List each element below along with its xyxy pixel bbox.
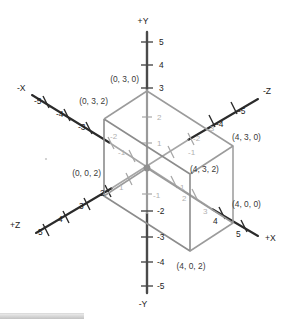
tick-label-z-neg4: -4	[216, 119, 224, 129]
tick-label-inner-z-neg1: -1	[188, 148, 196, 157]
tick-label-z-2: 2	[100, 188, 105, 198]
tick-label-z-3: 3	[79, 201, 84, 211]
tick-label-inner-x-1: 1	[180, 183, 185, 192]
tick-label-inner-z-1: 1	[119, 183, 124, 192]
box-edge-top-left	[104, 91, 147, 119]
axis-label-z-positive: +Z	[10, 220, 20, 230]
tick-label-inner-x-3: 3	[203, 207, 208, 216]
box-edge-bottom-left	[104, 168, 147, 196]
axis-label-z-negative: -Z	[263, 86, 271, 96]
tick-label-y-neg5: -5	[157, 281, 165, 291]
axis-lines	[32, 32, 258, 293]
tick-label-z-neg5: -5	[238, 106, 246, 116]
vertex-label-0-3-0: (0, 3, 0)	[110, 74, 139, 84]
axis-label-x-negative: -X	[17, 83, 26, 93]
tick-label-z-4: 4	[58, 214, 63, 224]
tick-labels-y-negative: -2 -3 -4 -5	[157, 206, 165, 291]
tick-label-inner-y-2: 2	[157, 113, 162, 122]
tick-label-inner-x-2: 2	[182, 194, 187, 203]
tick-label-inner-y-neg1: -1	[153, 191, 161, 200]
vertex-label-4-0-0: (4, 0, 0)	[232, 199, 261, 209]
tick-label-x-neg4: -4	[56, 109, 64, 119]
coordinate-system-figure: +Y -Y +X -X +Z -Z 5 4 3 -2 -3 -4 -5 4 5 …	[0, 0, 294, 319]
vertex-label-4-0-2: (4, 0, 2)	[177, 261, 206, 271]
origin-marker	[144, 165, 151, 172]
tick-labels-y-positive: 5 4 3	[159, 37, 164, 93]
page-speck	[45, 158, 47, 160]
vertex-label-0-0-2: (0, 0, 2)	[72, 168, 101, 178]
tick-label-y-neg4: -4	[157, 257, 165, 267]
tick-label-x-5: 5	[236, 229, 241, 239]
axis-lines-inner	[110, 90, 212, 213]
vertex-label-0-3-2: (0, 3, 2)	[79, 96, 108, 106]
tick-labels-z-negative: -4 -5	[216, 106, 246, 129]
tick-label-x-4: 4	[213, 216, 218, 226]
tick-label-x-neg3: -3	[78, 122, 86, 132]
tick-label-inner-x-neg1: -1	[118, 148, 126, 157]
tick-label-x-neg5: -5	[34, 96, 42, 106]
tick-label-inner-z-neg2: -2	[193, 134, 201, 143]
tick-label-y-neg2: -2	[157, 206, 165, 216]
vertex-label-4-3-2: (4, 3, 2)	[190, 164, 219, 174]
tick-label-y-3: 3	[159, 83, 164, 93]
tick-label-inner-z-neg3: -3	[207, 124, 215, 133]
vertex-label-4-3-0: (4, 3, 0)	[232, 132, 261, 142]
window-scrollbar-remnant[interactable]	[0, 313, 84, 319]
tick-label-y-neg3: -3	[157, 232, 165, 242]
axis-label-x-positive: +X	[265, 233, 276, 243]
tick-label-y-5: 5	[159, 37, 164, 47]
tick-label-y-4: 4	[159, 60, 164, 70]
axis-label-y-negative: -Y	[139, 299, 148, 309]
tick-label-inner-x-neg2: -2	[110, 132, 118, 141]
axis-label-y-positive: +Y	[138, 16, 149, 26]
box-edge-bottom-right	[190, 223, 233, 251]
tick-label-z-5: 5	[38, 227, 43, 237]
tick-label-inner-y-1: 1	[157, 139, 162, 148]
